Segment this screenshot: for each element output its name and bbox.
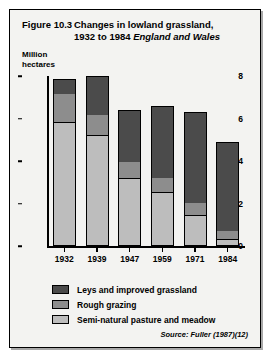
y-axis-title: Millionhectares	[22, 50, 55, 69]
y-axis-title-line-2: hectares	[22, 60, 55, 69]
y-axis-title-line-1: Million	[22, 50, 47, 59]
y-axis-tick-mark	[18, 75, 22, 77]
bar-segment	[152, 107, 173, 178]
bar-segment	[152, 178, 173, 193]
legend-swatch-light-icon	[52, 315, 69, 324]
bar-segment	[152, 193, 173, 245]
figure-title-years: 1932 to 1984	[74, 31, 131, 42]
bar-segment	[87, 136, 108, 245]
figure-title-text-1: Changes in lowland grassland,	[74, 19, 213, 30]
bar-segment	[185, 203, 206, 216]
y-axis-tick-mark	[18, 245, 22, 247]
legend-item-rough-grazing: Rough grazing	[52, 297, 252, 312]
legend-item-semi-natural: Semi-natural pasture and meadow	[52, 312, 252, 327]
figure-title-region: England and Wales	[133, 31, 220, 42]
bar-1947	[118, 110, 141, 246]
figure-source: Source: Fuller (1987)(12)	[160, 330, 248, 339]
bar-1959	[151, 106, 174, 246]
figure-title-line-1: Figure 10.3Changes in lowland grassland,	[22, 19, 254, 31]
chart-plot: 02468 193219391947195919711984	[22, 72, 250, 264]
bar-segment	[54, 80, 75, 94]
legend-label-rough-grazing: Rough grazing	[77, 300, 137, 310]
legend-swatch-dark-icon	[52, 285, 69, 294]
x-axis-tick-mark	[227, 248, 229, 252]
bar-segment	[87, 115, 108, 136]
x-axis-tick-label: 1959	[153, 254, 172, 264]
bar-segment	[185, 216, 206, 245]
bar-1932	[53, 79, 76, 246]
x-axis-tick-mark	[64, 248, 66, 252]
figure-number: Figure 10.3	[22, 19, 74, 31]
y-axis-tick-mark	[18, 160, 22, 162]
x-axis-tick-label: 1939	[88, 254, 107, 264]
bar-segment	[185, 113, 206, 203]
legend-item-leys: Leys and improved grassland	[52, 282, 252, 297]
bar-segment	[119, 111, 140, 162]
x-axis-tick-mark	[162, 248, 164, 252]
legend-label-semi-natural: Semi-natural pasture and meadow	[77, 315, 215, 325]
figure-title: Figure 10.3Changes in lowland grassland,…	[22, 19, 254, 43]
x-axis-labels: 193219391947195919711984	[48, 248, 244, 264]
bar-segment	[119, 179, 140, 245]
x-axis-tick-label: 1984	[218, 254, 237, 264]
chart-legend: Leys and improved grassland Rough grazin…	[52, 282, 252, 327]
bar-1939	[86, 76, 109, 246]
bar-segment	[87, 77, 108, 115]
bar-segment	[217, 143, 238, 232]
x-axis-tick-mark	[129, 248, 131, 252]
figure-title-line-2: 1932 to 1984 England and Wales	[22, 31, 254, 43]
bar-segment	[54, 123, 75, 245]
x-axis-tick-label: 1947	[120, 254, 139, 264]
bar-segment	[217, 240, 238, 245]
bar-segment	[217, 231, 238, 239]
legend-swatch-mid-icon	[52, 300, 69, 309]
bar-1971	[184, 112, 207, 246]
figure-panel: Figure 10.3Changes in lowland grassland,…	[9, 9, 261, 348]
y-axis-tick-mark	[18, 118, 22, 120]
bars-container	[48, 76, 244, 246]
legend-label-leys: Leys and improved grassland	[77, 285, 197, 295]
x-axis-tick-label: 1932	[55, 254, 74, 264]
x-axis-tick-label: 1971	[186, 254, 205, 264]
bar-1984	[216, 142, 239, 246]
bar-segment	[54, 94, 75, 123]
bar-segment	[119, 162, 140, 179]
x-axis-tick-mark	[96, 248, 98, 252]
y-axis-tick-mark	[18, 203, 22, 205]
x-axis-tick-mark	[194, 248, 196, 252]
